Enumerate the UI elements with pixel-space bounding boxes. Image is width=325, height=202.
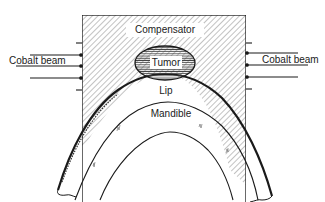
label-mandible: Mandible	[151, 108, 192, 119]
left-beam	[16, 43, 82, 90]
label-beam-right: Cobalt beam	[262, 54, 319, 65]
label-lip: Lip	[159, 85, 173, 96]
compensator-diagram: Compensator Tumor Lip Mandible Cobalt be…	[0, 0, 325, 202]
label-compensator: Compensator	[135, 24, 196, 35]
right-beam	[246, 43, 308, 89]
mandible-inner	[100, 132, 233, 200]
label-tumor: Tumor	[152, 57, 181, 68]
label-beam-left: Cobalt beam	[9, 55, 66, 66]
